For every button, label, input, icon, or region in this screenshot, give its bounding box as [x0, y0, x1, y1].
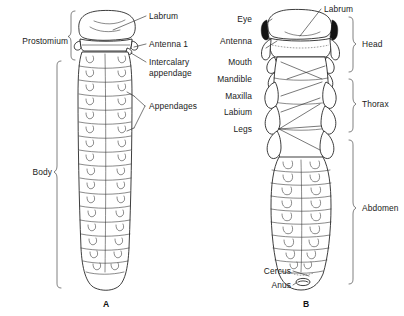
panel-b-leg-left-1 — [265, 82, 278, 108]
panel-a-antenna-right — [131, 41, 138, 50]
label-maxilla: Maxilla — [225, 91, 252, 101]
panel-b-leg-right-1 — [323, 82, 336, 108]
panel-b-head-band — [269, 38, 332, 57]
label-anus: Anus — [272, 280, 292, 290]
panel-b-drawing — [261, 9, 339, 290]
panel-b-labrum — [268, 9, 332, 39]
figure-root: Prostomium Body Labrum Antenna 1 Interca… — [0, 0, 404, 316]
panel-a-braces — [54, 11, 75, 288]
panel-b-antenna-right — [330, 39, 340, 60]
label-intercalary: Intercalary — [149, 57, 189, 67]
leader-intercalary-a — [131, 53, 146, 62]
panel-b-leg-right-2 — [321, 106, 336, 134]
label-legs: Legs — [233, 124, 252, 134]
label-antenna: Antenna — [220, 36, 252, 46]
label-thorax: Thorax — [362, 99, 389, 109]
panel-a-drawing — [74, 10, 138, 290]
diagram-canvas — [0, 0, 404, 316]
panel-a-antenna-left — [74, 41, 81, 50]
label-labrum-b: Labrum — [324, 4, 353, 14]
panel-caption-b: B — [303, 299, 310, 309]
label-eye: Eye — [237, 14, 252, 24]
label-antenna-1: Antenna 1 — [149, 39, 188, 49]
label-abdomen: Abdomen — [362, 203, 399, 213]
panel-a-labrum — [79, 10, 135, 40]
label-body: Body — [33, 167, 53, 177]
panel-b-braces — [349, 17, 356, 284]
label-intercalary-appendage: appendage — [149, 68, 192, 78]
leader-appendages-a — [134, 96, 145, 128]
brace-abdomen — [349, 140, 356, 284]
panel-b-leg-left-2 — [265, 106, 280, 134]
label-appendages: Appendages — [149, 101, 197, 111]
brace-prostomium — [68, 11, 75, 60]
panel-caption-a: A — [103, 299, 110, 309]
label-head: Head — [362, 39, 382, 49]
label-mandible: Mandible — [217, 74, 252, 84]
label-mouth: Mouth — [228, 57, 252, 67]
panel-b-leg-left-3 — [267, 131, 281, 159]
brace-body — [54, 61, 61, 288]
panel-b-antenna-left — [261, 39, 271, 60]
brace-head — [349, 17, 356, 72]
brace-thorax — [349, 79, 356, 132]
label-prostomium: Prostomium — [22, 36, 68, 46]
label-labium: Labium — [224, 107, 252, 117]
label-cercus: Cercus — [264, 266, 291, 276]
label-labrum-a: Labrum — [149, 11, 178, 21]
panel-b-leg-right-3 — [320, 131, 334, 159]
